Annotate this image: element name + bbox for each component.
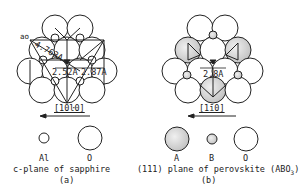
legend-al-label: Al (39, 153, 49, 163)
caption-b: (111) plane of perovskite (ABO3) (137, 164, 299, 178)
lattice-constant-label: ao (20, 32, 29, 42)
direction-label-a: [10ŀ0] (54, 103, 85, 113)
legend-al-icon (39, 133, 49, 143)
legend-o-label-a: O (87, 153, 92, 163)
legend-b-icon (207, 134, 217, 144)
distance-label-1: 2.52A (52, 67, 78, 77)
direction-arrow-a (40, 114, 90, 118)
direction-label-b: [1ī0] (199, 103, 225, 113)
direction-arrow-b (188, 114, 236, 118)
distance-label-2: 2.87A (81, 67, 107, 77)
legend-o-icon-b (234, 127, 258, 151)
caption-a: c-plane of sapphire (13, 164, 110, 174)
legend-a-icon (165, 127, 189, 151)
sapphire-lattice (17, 15, 117, 103)
legend-o-icon-a (78, 126, 102, 150)
legend-a-label: A (174, 153, 179, 163)
legend-b-label: B (209, 153, 214, 163)
distance-label-b: 2.8A (203, 69, 223, 79)
perovskite-lattice (162, 15, 263, 103)
panel-letter-b: (b) (201, 175, 216, 185)
legend-o-label-b: O (243, 153, 248, 163)
panel-letter-a: (a) (59, 175, 74, 185)
